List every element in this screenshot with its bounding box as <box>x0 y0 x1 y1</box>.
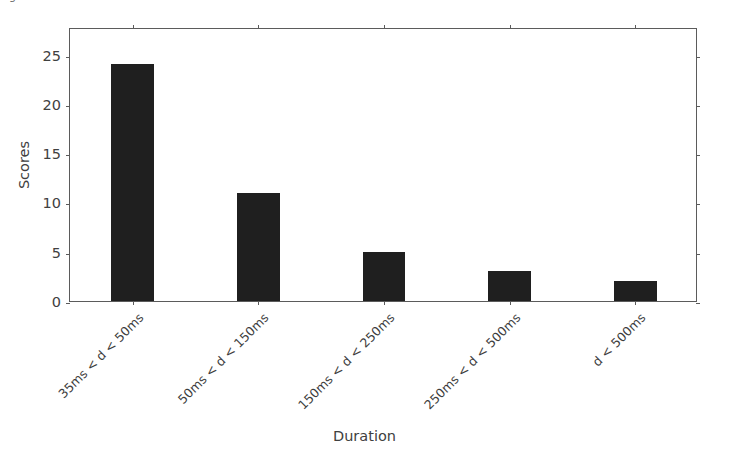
bar <box>363 252 406 301</box>
bar <box>488 271 531 301</box>
x-axis-tick-mark <box>384 25 385 29</box>
x-axis-tick-label: 35ms < d < 50ms <box>55 310 146 401</box>
x-axis-tick-label: 50ms < d < 150ms <box>175 310 272 407</box>
x-axis-tick-label: d < 500ms <box>589 310 648 369</box>
x-axis-tick-mark <box>258 301 259 305</box>
x-axis-tick-label: 250ms < d < 500ms <box>421 310 523 412</box>
x-axis-tick-mark <box>384 301 385 305</box>
y-axis-tick-label: 5 <box>52 245 61 261</box>
y-axis-tick-mark <box>696 106 700 107</box>
y-axis-tick-mark <box>66 57 70 58</box>
x-axis-tick-mark <box>510 301 511 305</box>
bar <box>614 281 657 301</box>
y-axis-tick-label: 10 <box>43 195 61 211</box>
y-axis-tick-mark <box>66 155 70 156</box>
bar <box>111 64 154 301</box>
x-axis-tick-mark <box>635 301 636 305</box>
y-axis-tick-mark <box>696 254 700 255</box>
y-axis-tick-mark <box>66 303 70 304</box>
plot-inner <box>70 29 696 301</box>
x-axis-tick-label: 150ms < d < 250ms <box>295 310 397 412</box>
y-axis-tick-mark <box>66 106 70 107</box>
y-axis-tick-mark <box>66 254 70 255</box>
x-axis-tick-mark <box>258 25 259 29</box>
y-axis-tick-label: 0 <box>52 294 61 310</box>
x-axis-tick-mark <box>510 25 511 29</box>
cropped-caption-remnant: Figure <box>0 0 729 8</box>
y-axis-tick-mark <box>696 155 700 156</box>
y-axis-tick-label: 20 <box>43 97 61 113</box>
y-axis-label: Scores <box>16 141 32 189</box>
y-axis-tick-label: 25 <box>43 48 61 64</box>
x-axis-tick-mark <box>133 25 134 29</box>
plot-area <box>69 28 697 302</box>
y-axis-tick-mark <box>66 204 70 205</box>
y-axis-tick-mark <box>696 303 700 304</box>
y-axis-tick-label: 15 <box>43 146 61 162</box>
y-axis-tick-mark <box>696 57 700 58</box>
x-axis-label: Duration <box>0 428 729 444</box>
y-axis-tick-mark <box>696 204 700 205</box>
y-axis-label-wrap: Scores <box>24 165 25 166</box>
x-axis-tick-mark <box>635 25 636 29</box>
bar <box>237 193 280 301</box>
figure-canvas: Figure Scores 0510152025 35ms < d < 50ms… <box>0 0 729 466</box>
x-axis-tick-mark <box>133 301 134 305</box>
